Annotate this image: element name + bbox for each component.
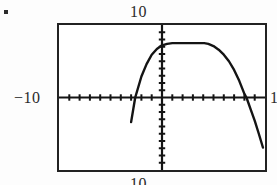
- axis-label-ymax: 10: [0, 4, 277, 20]
- axis-label-ymin: 10: [0, 176, 277, 185]
- axis-label-xmax: 10: [270, 90, 277, 106]
- graph-screenshot: 10 −10 10 10: [0, 0, 277, 185]
- axis-label-xmin: −10: [14, 90, 41, 106]
- plot-canvas: [59, 25, 265, 170]
- plot-frame: [57, 23, 267, 172]
